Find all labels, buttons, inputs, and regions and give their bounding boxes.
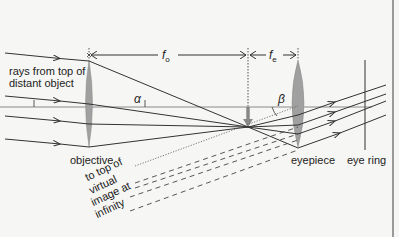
eyepiece-label: eyepiece <box>291 155 335 166</box>
fo-subscript: o <box>165 55 169 64</box>
virtual-image-dashed-rays <box>130 127 298 211</box>
eye-ring-label: eye ring <box>347 155 386 166</box>
fe-subscript: e <box>272 55 276 64</box>
right-frame-border <box>392 0 394 237</box>
fo-label: fo <box>162 49 170 61</box>
incoming-rays-label-line1: rays from top of <box>9 66 85 77</box>
alpha-label: α <box>134 93 141 105</box>
ray-diagram-canvas <box>0 0 399 237</box>
fe-label: fe <box>269 49 277 61</box>
converging-rays <box>89 61 298 148</box>
telescope-diagram: rays from top of distant object objectiv… <box>0 0 399 237</box>
beta-label: β <box>278 93 285 105</box>
emergent-rays <box>298 85 386 148</box>
incoming-rays-label-line2: distant object <box>9 78 74 89</box>
chief-ray-dotted <box>135 106 298 166</box>
